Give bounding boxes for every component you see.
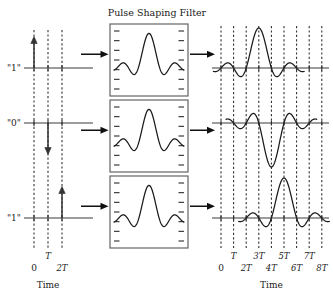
left-axis-labels: T02TTime — [31, 251, 69, 290]
right-row-0 — [212, 28, 329, 77]
filter-box-2[interactable] — [110, 176, 188, 248]
left-row-1: "0" — [7, 118, 93, 155]
filter-input-arrow-0 — [81, 51, 109, 58]
filter-output-arrow-2 — [190, 203, 215, 210]
right-tick-lower-1: 2T — [240, 263, 253, 273]
filter-output-arrow-1 — [190, 127, 215, 134]
impulse-arrowhead-up-row-2 — [59, 187, 65, 194]
filter-output-arrow-0 — [190, 51, 215, 58]
output-arrowhead-0 — [207, 51, 215, 58]
input-arrowhead-0 — [101, 51, 109, 58]
pulse-shaping-diagram: Pulse Shaping Filter"1""0""1"T02TTimeT3T… — [0, 0, 333, 295]
right-tick-lower-0: 0 — [218, 263, 224, 273]
right-tick-lower-4: 8T — [316, 263, 328, 273]
left-tick-upper-0: T — [45, 251, 52, 261]
filter-input-arrow-2 — [81, 203, 109, 210]
output-arrowhead-2 — [207, 203, 215, 210]
right-time-label: Time — [260, 280, 283, 290]
left-row-2: "1" — [7, 187, 93, 224]
right-output-panel: T3T5T7T02T4T6T8TTime — [212, 26, 329, 290]
right-tick-upper-1: 3T — [253, 251, 265, 261]
page-title: Pulse Shaping Filter — [108, 7, 207, 18]
filter-blocks — [81, 24, 215, 248]
left-impulse-panel: "1""0""1"T02TTime — [7, 30, 93, 290]
figure-root: Pulse Shaping Filter"1""0""1"T02TTimeT3T… — [0, 0, 333, 295]
left-time-label: Time — [37, 280, 60, 290]
right-tick-lower-3: 6T — [291, 263, 303, 273]
filter-box-0[interactable] — [110, 24, 188, 96]
filter-box-1[interactable] — [110, 100, 188, 172]
right-tick-upper-0: T — [231, 251, 238, 261]
right-row-1 — [212, 113, 329, 167]
impulse-arrowhead-down-row-1 — [45, 148, 51, 155]
filter-block-1[interactable] — [110, 100, 188, 172]
filter-block-2[interactable] — [110, 176, 188, 248]
input-arrowhead-2 — [101, 203, 109, 210]
right-tick-lower-2: 4T — [265, 263, 278, 273]
right-tick-upper-2: 5T — [278, 251, 290, 261]
right-row-2 — [212, 178, 329, 227]
bit-label-row-0: "1" — [7, 63, 21, 73]
left-row-0: "1" — [7, 37, 93, 74]
right-tick-upper-3: 7T — [304, 251, 316, 261]
figure-title: Pulse Shaping Filter — [108, 7, 207, 18]
bit-label-row-1: "0" — [7, 118, 21, 128]
left-tick-lower-1: 2T — [55, 263, 68, 273]
input-arrowhead-1 — [101, 127, 109, 134]
filter-block-0[interactable] — [110, 24, 188, 96]
bit-label-row-2: "1" — [7, 213, 21, 223]
left-tick-lower-0: 0 — [31, 263, 37, 273]
filter-input-arrow-1 — [81, 127, 109, 134]
right-axis-labels: T3T5T7T02T4T6T8TTime — [218, 251, 329, 290]
impulse-arrowhead-up-row-0 — [31, 37, 37, 44]
output-arrowhead-1 — [207, 127, 215, 134]
